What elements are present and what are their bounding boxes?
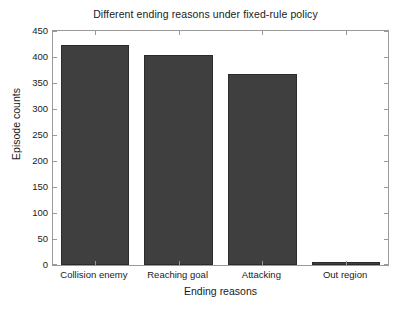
y-tick-mark (384, 239, 388, 240)
x-tick-mark (95, 31, 96, 35)
x-tick-label: Attacking (242, 269, 281, 280)
x-tick-mark (346, 261, 347, 265)
y-tick-mark (384, 187, 388, 188)
y-tick-mark (384, 31, 388, 32)
x-tick-label: Reaching goal (147, 269, 208, 280)
plot-area (52, 30, 389, 266)
x-tick-mark (95, 261, 96, 265)
y-tick-mark (53, 83, 57, 84)
x-tick-label: Collision enemy (60, 269, 127, 280)
y-tick-mark (53, 264, 57, 265)
bar-series (53, 31, 388, 265)
y-tick-label: 200 (32, 155, 48, 166)
y-tick-mark (384, 264, 388, 265)
chart-title: Different ending reasons under fixed-rul… (0, 8, 411, 20)
y-tick-mark (384, 161, 388, 162)
x-tick-mark (346, 31, 347, 35)
y-tick-mark (384, 57, 388, 58)
y-tick-mark (384, 213, 388, 214)
y-tick-mark (384, 109, 388, 110)
x-tick-mark (262, 31, 263, 35)
y-tick-label: 100 (32, 207, 48, 218)
bar (61, 45, 130, 265)
y-tick-label: 300 (32, 103, 48, 114)
y-tick-label: 450 (32, 25, 48, 36)
x-axis-tick-labels: Collision enemyReaching goalAttackingOut… (52, 269, 389, 283)
y-tick-mark (53, 213, 57, 214)
x-axis-label: Ending reasons (52, 285, 389, 297)
y-tick-mark (53, 161, 57, 162)
y-tick-mark (53, 135, 57, 136)
x-tick-mark (179, 31, 180, 35)
y-tick-mark (53, 187, 57, 188)
y-tick-mark (53, 109, 57, 110)
y-tick-mark (53, 57, 57, 58)
y-tick-label: 400 (32, 51, 48, 62)
y-tick-label: 150 (32, 181, 48, 192)
y-tick-label: 250 (32, 129, 48, 140)
x-tick-mark (262, 261, 263, 265)
x-tick-mark (179, 261, 180, 265)
y-tick-label: 0 (43, 259, 48, 270)
bar (228, 74, 297, 265)
x-tick-label: Out region (323, 269, 367, 280)
y-tick-label: 50 (37, 233, 48, 244)
figure-canvas: Different ending reasons under fixed-rul… (0, 0, 411, 313)
y-tick-mark (384, 83, 388, 84)
y-tick-mark (53, 239, 57, 240)
y-tick-label: 350 (32, 77, 48, 88)
y-tick-mark (384, 135, 388, 136)
y-axis-tick-labels: 050100150200250300350400450 (16, 30, 48, 266)
bar (144, 55, 213, 265)
y-tick-mark (53, 31, 57, 32)
